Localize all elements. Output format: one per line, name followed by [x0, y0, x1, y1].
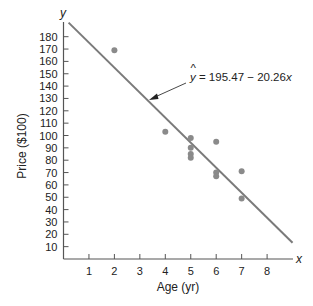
x-tick-label: 4: [162, 265, 168, 277]
y-tick-label: 20: [45, 228, 57, 240]
y-tick-label: 150: [39, 68, 57, 80]
x-tick-label: 6: [213, 265, 219, 277]
data-point: [188, 145, 194, 151]
y-tick-label: 10: [45, 241, 57, 253]
y-tick-label: 40: [45, 204, 57, 216]
y-tick-label: 160: [39, 55, 57, 67]
plot-area: 1020304050607080901001101201301401501601…: [39, 22, 293, 277]
x-axis-title: Age (yr): [157, 280, 200, 294]
y-tick-label: 30: [45, 216, 57, 228]
x-tick-label: 3: [137, 265, 143, 277]
y-tick-label: 180: [39, 31, 57, 43]
x-tick-label: 2: [111, 265, 117, 277]
data-point: [239, 168, 245, 174]
y-tick-label: 50: [45, 191, 57, 203]
data-point: [239, 195, 245, 201]
regression-line: [69, 23, 293, 243]
hat-accent-icon: ^: [191, 62, 197, 74]
arrowhead-icon: [149, 94, 159, 101]
annotation-leader-line: [155, 83, 186, 97]
regression-equation-label: y = 195.47 − 20.26x ^: [189, 62, 293, 83]
equation-text: y = 195.47 − 20.26x: [189, 71, 293, 83]
data-point: [213, 139, 219, 145]
x-tick-label: 8: [264, 265, 270, 277]
y-tick-label: 130: [39, 92, 57, 104]
y-tick-label: 80: [45, 154, 57, 166]
data-point: [188, 135, 194, 141]
y-tick-label: 110: [40, 117, 58, 129]
x-axis-variable-label: x: [295, 252, 303, 266]
regression-scatter-chart: 1020304050607080901001101201301401501601…: [0, 0, 313, 306]
data-point: [213, 173, 219, 179]
x-tick-label: 7: [239, 265, 245, 277]
data-point: [111, 47, 117, 53]
y-tick-label: 100: [39, 130, 57, 142]
y-tick-label: 170: [39, 43, 57, 55]
y-axis-variable-label: y: [59, 6, 67, 20]
x-tick-label: 1: [86, 265, 92, 277]
x-tick-label: 5: [188, 265, 194, 277]
y-axis-title: Price ($100): [15, 113, 29, 178]
data-point: [162, 129, 168, 135]
data-point: [188, 155, 194, 161]
y-tick-label: 90: [45, 142, 57, 154]
equation-x-var: x: [285, 71, 293, 83]
y-tick-label: 120: [39, 105, 57, 117]
y-tick-label: 60: [45, 179, 57, 191]
y-tick-label: 70: [45, 167, 57, 179]
equation-body: = 195.47 − 20.26: [196, 71, 286, 83]
y-tick-label: 140: [39, 80, 57, 92]
